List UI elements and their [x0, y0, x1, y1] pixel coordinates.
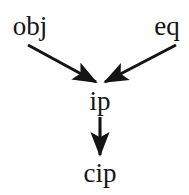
node-eq: eq [154, 13, 179, 40]
node-obj: obj [13, 13, 48, 40]
edge-eq-to-ip [105, 45, 176, 82]
diagram-canvas: obj eq ip cip [0, 0, 189, 195]
node-cip: cip [84, 160, 117, 187]
edge-obj-to-ip [28, 45, 96, 82]
node-ip: ip [89, 88, 110, 115]
